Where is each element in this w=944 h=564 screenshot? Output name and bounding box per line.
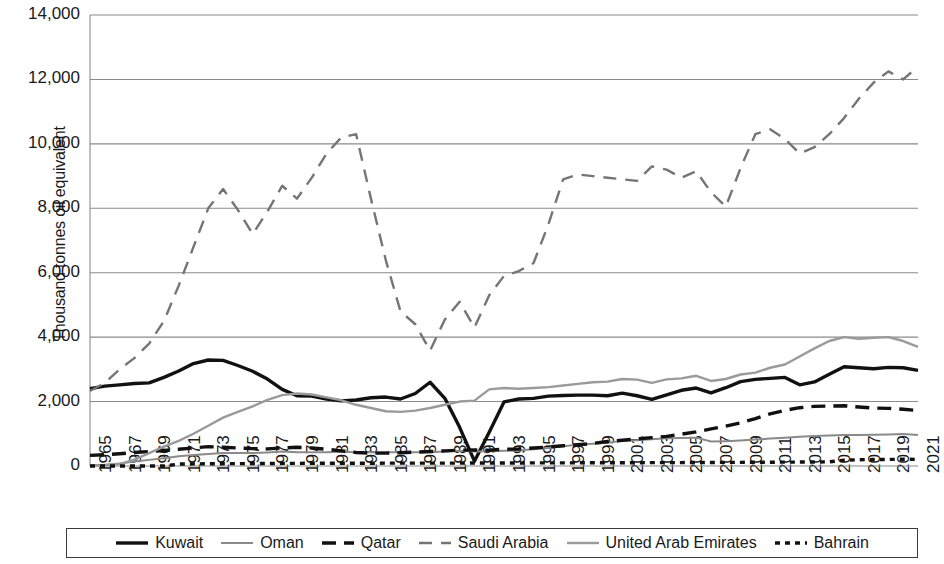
- legend-label: Kuwait: [155, 534, 203, 552]
- legend-label: United Arab Emirates: [606, 534, 757, 552]
- series-line-kuwait: [90, 360, 918, 461]
- legend-label: Qatar: [361, 534, 401, 552]
- legend-item-saudi-arabia: Saudi Arabia: [418, 534, 549, 552]
- legend-item-united-arab-emirates: United Arab Emirates: [566, 534, 757, 552]
- series-line-bahrain: [90, 459, 918, 466]
- legend-item-kuwait: Kuwait: [115, 534, 203, 552]
- legend-swatch-icon: [418, 537, 452, 549]
- legend-label: Bahrain: [814, 534, 869, 552]
- legend-item-qatar: Qatar: [321, 534, 401, 552]
- legend-swatch-icon: [220, 537, 254, 549]
- legend-swatch-icon: [566, 537, 600, 549]
- legend-swatch-icon: [321, 537, 355, 549]
- legend-label: Saudi Arabia: [458, 534, 549, 552]
- legend-label: Oman: [260, 534, 304, 552]
- legend-swatch-icon: [774, 537, 808, 549]
- legend-item-oman: Oman: [220, 534, 304, 552]
- chart-legend: KuwaitOmanQatarSaudi ArabiaUnited Arab E…: [66, 528, 918, 558]
- series-line-saudi-arabia: [90, 67, 918, 391]
- legend-swatch-icon: [115, 537, 149, 549]
- series-line-qatar: [90, 406, 918, 456]
- legend-item-bahrain: Bahrain: [774, 534, 869, 552]
